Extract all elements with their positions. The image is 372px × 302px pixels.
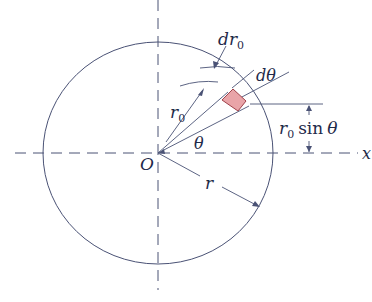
r-arrow-shaft-1 [158,153,200,176]
height-arrow-top-head [306,105,312,111]
label-x-axis: x [362,144,371,163]
area-element [222,89,246,111]
polar-disk-diagram: dr0 dθ r0 θ O r r0sinθ x [0,0,372,302]
dr0-arrow-head [213,61,219,69]
r-arrow-head [252,201,260,207]
r-arrow-shaft-2 [222,187,258,206]
r0-arrow-head [198,88,204,96]
label-origin: O [140,154,154,174]
label-dtheta: dθ [256,66,276,85]
label-theta: θ [194,134,204,153]
diagram-canvas: dr0 dθ r0 θ O r r0sinθ x [0,0,372,302]
radial-line-dtheta-ext2 [232,70,254,88]
label-r0: r0 [170,102,185,125]
height-arrow-bottom-head [306,146,312,152]
label-r0-sin-theta: r0sinθ [279,118,338,141]
arc-inner-r0 [180,81,218,86]
label-r: r [205,173,214,193]
label-dr0: dr0 [218,29,244,52]
